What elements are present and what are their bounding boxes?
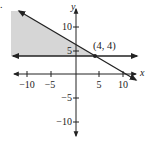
- intersection-point-label: (4, 4): [93, 40, 116, 52]
- intersection-point: [93, 54, 97, 58]
- x-tick-label: 10: [118, 79, 128, 90]
- item-bullet: .: [0, 0, 3, 10]
- x-tick-label: 5: [97, 79, 102, 90]
- y-tick-label: 10: [62, 21, 72, 32]
- y-tick-label: 5: [67, 45, 72, 56]
- y-tick-label: −5: [61, 92, 72, 103]
- y-tick-label: −10: [56, 116, 72, 127]
- x-tick-label: −10: [19, 79, 35, 90]
- x-axis-label: x: [139, 67, 145, 78]
- graph: −10 −5 5 10 10 5 −5 −10 y x (4, 4) .: [0, 0, 145, 143]
- y-axis-label: y: [70, 1, 76, 12]
- shaded-region: [11, 11, 95, 56]
- x-tick-label: −5: [45, 79, 56, 90]
